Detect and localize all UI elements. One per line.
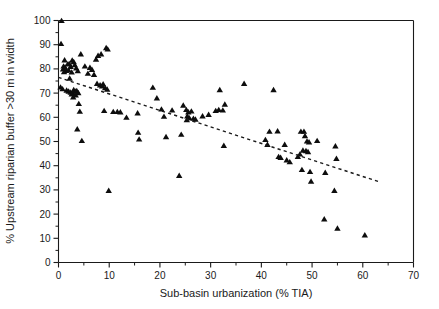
data-point-marker <box>266 128 272 133</box>
x-axis-title: Sub-basin urbanization (% TIA) <box>160 287 313 299</box>
data-point-marker <box>163 134 169 139</box>
data-point-marker <box>161 113 167 118</box>
y-tick-label: 40 <box>39 160 51 171</box>
data-point-marker <box>180 102 186 107</box>
data-point-marker <box>221 143 227 148</box>
data-point-marker <box>322 170 328 175</box>
y-tick-label: 30 <box>39 184 51 195</box>
y-axis-ticks <box>54 21 59 263</box>
data-point-marker <box>333 156 339 161</box>
data-point-marker <box>321 216 327 221</box>
data-point-marker <box>331 188 337 193</box>
data-point-marker <box>77 108 83 113</box>
x-tick-label: 50 <box>307 270 319 281</box>
x-tick-label: 10 <box>104 270 116 281</box>
data-point-marker <box>274 128 280 133</box>
data-point-marker <box>106 188 112 193</box>
x-tick-label: 40 <box>256 270 268 281</box>
data-point-marker <box>334 225 340 230</box>
data-point-marker <box>154 95 160 100</box>
y-tick-label: 90 <box>39 39 51 50</box>
y-axis-tick-labels: 0102030405060708090100 <box>34 15 51 268</box>
y-tick-label: 100 <box>34 15 51 26</box>
data-point-marker <box>362 232 368 237</box>
data-point-marker <box>158 106 164 111</box>
data-point-marker <box>178 131 184 136</box>
data-point-marker <box>74 126 80 131</box>
y-tick-label: 50 <box>39 136 51 147</box>
data-point-marker <box>61 57 67 62</box>
data-point-marker <box>91 72 97 77</box>
data-point-marker <box>101 108 107 113</box>
y-tick-label: 80 <box>39 63 51 74</box>
data-point-marker <box>241 81 247 86</box>
data-point-marker <box>199 113 205 118</box>
trendline <box>59 77 379 181</box>
data-point-marker <box>307 169 313 174</box>
y-tick-label: 60 <box>39 112 51 123</box>
data-point-marker <box>270 87 276 92</box>
x-tick-label: 60 <box>357 270 369 281</box>
scatter-chart: 010203040506070 0102030405060708090100 S… <box>0 0 439 309</box>
x-axis-ticks <box>59 263 414 268</box>
x-axis-tick-labels: 010203040506070 <box>56 270 420 281</box>
data-point-marker <box>176 173 182 178</box>
x-tick-label: 0 <box>56 270 62 281</box>
data-point-marker <box>299 167 305 172</box>
regression-trendline <box>59 77 379 181</box>
data-point-marker <box>205 112 211 117</box>
data-point-marker <box>262 137 268 142</box>
data-point-marker <box>76 101 82 106</box>
data-point-marker <box>169 107 175 112</box>
x-tick-label: 70 <box>408 270 420 281</box>
y-axis-title: % Upstream riparian buffer >30 m in widt… <box>4 38 16 244</box>
y-tick-label: 70 <box>39 88 51 99</box>
data-point-marker <box>134 110 140 115</box>
data-point-marker <box>123 114 129 119</box>
x-tick-label: 20 <box>154 270 166 281</box>
y-tick-label: 0 <box>45 257 51 268</box>
data-point-marker <box>98 51 104 56</box>
data-point-marker <box>78 51 84 56</box>
data-point-marker <box>94 81 100 86</box>
x-tick-label: 30 <box>205 270 217 281</box>
data-point-marker <box>150 84 156 89</box>
data-point-marker <box>314 138 320 143</box>
data-point-marker <box>281 142 287 147</box>
data-point-marker <box>308 178 314 183</box>
y-tick-label: 20 <box>39 209 51 220</box>
plot-frame <box>59 21 414 263</box>
data-point-marker <box>222 101 228 106</box>
data-point-marker <box>79 138 85 143</box>
data-point-marker <box>135 129 141 134</box>
y-tick-label: 10 <box>39 233 51 244</box>
data-point-marker <box>332 143 338 148</box>
data-point-marker <box>217 87 223 92</box>
data-point-marker <box>136 136 142 141</box>
data-point-marker <box>82 63 88 68</box>
